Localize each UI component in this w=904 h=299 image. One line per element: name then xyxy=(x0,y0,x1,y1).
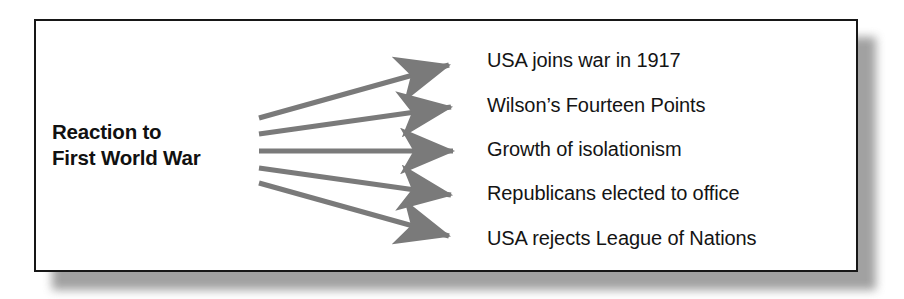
outcome-label-fourteen-points: Wilson’s Fourteen Points xyxy=(487,94,705,116)
outcome-label-isolationism: Growth of isolationism xyxy=(487,138,682,160)
outcome-label-republicans-elected: Republicans elected to office xyxy=(487,182,739,204)
diagram-frame: Reaction to First World War USA joins wa… xyxy=(34,19,858,272)
outcome-label-usa-joins-war: USA joins war in 1917 xyxy=(487,49,681,71)
diagram-page: Reaction to First World War USA joins wa… xyxy=(0,0,904,299)
outcome-label-league-rejected: USA rejects League of Nations xyxy=(487,227,756,249)
